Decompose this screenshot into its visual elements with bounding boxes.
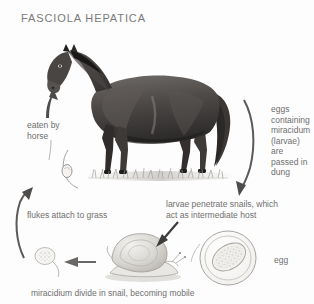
figure-canvas: FASCIOLA HEPATICA: [0, 0, 314, 304]
label-miracidium-divide: miracidium divide in snail, becoming mob…: [31, 288, 194, 299]
arrow-curved-down-dung: [236, 100, 253, 196]
label-eaten-by-horse: eaten by horse: [27, 120, 60, 141]
fluke-on-grass-illustration: [62, 150, 78, 188]
miracidium-illustration: [35, 248, 59, 278]
egg-illustration: [200, 231, 256, 285]
label-flukes-attach: flukes attach to grass: [27, 210, 107, 221]
arrow-curved-up-to-grass: [17, 187, 33, 258]
snail-illustration: [105, 234, 186, 282]
arrow-left-from-snail: [64, 257, 96, 267]
label-eggs-passed-in-dung: eggs containing miracidum (larvae) are p…: [271, 104, 314, 178]
label-egg: egg: [274, 255, 288, 266]
arrow-egg-connector: [191, 244, 200, 262]
arrow-down-left-into-snail: [156, 222, 178, 247]
diagram-artwork: [0, 0, 314, 304]
horse-illustration: [47, 44, 238, 181]
label-larvae-penetrate: larvae penetrate snails, which act as in…: [166, 199, 278, 220]
